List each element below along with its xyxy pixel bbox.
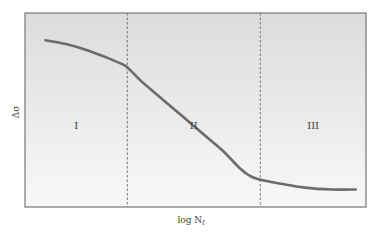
region-label-3: III [307, 120, 319, 131]
x-axis-label-subscript: f [202, 219, 205, 227]
chart-container: IIIIII Δσ log Nf [0, 0, 378, 236]
y-axis-label: Δσ [11, 106, 21, 119]
region-label-1: I [74, 120, 78, 131]
region-label-2: II [190, 120, 198, 131]
x-axis-label-main: log N [177, 215, 202, 225]
chart-svg: IIIIII Δσ log Nf [0, 0, 378, 236]
x-axis-label: log Nf [177, 215, 205, 227]
plot-area [25, 13, 366, 207]
